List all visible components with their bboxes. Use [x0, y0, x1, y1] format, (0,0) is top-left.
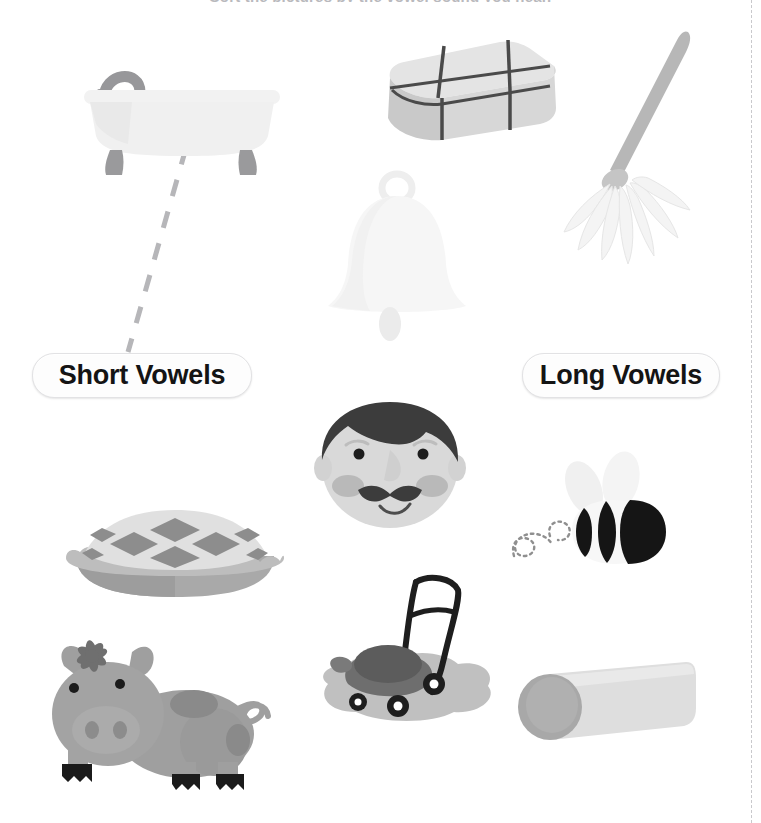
picture-pig[interactable]: [54, 622, 282, 794]
category-pill-short-vowels[interactable]: Short Vowels: [32, 353, 252, 398]
picture-lawn-mower[interactable]: [312, 572, 500, 730]
picture-log[interactable]: [500, 660, 696, 752]
picture-pie[interactable]: [62, 498, 288, 600]
gift-box-icon: [382, 32, 562, 147]
category-pill-long-vowels[interactable]: Long Vowels: [522, 353, 720, 398]
bathtub-icon: [82, 44, 282, 179]
picture-bell[interactable]: [322, 172, 472, 347]
picture-bathtub[interactable]: [82, 44, 282, 179]
log-icon: [500, 660, 696, 752]
pig-icon: [54, 622, 282, 794]
category-pill-short-vowels-label: Short Vowels: [59, 360, 226, 391]
cut-guide-line: [751, 0, 752, 823]
lawn-mower-icon: [312, 572, 500, 730]
man-face-icon: [314, 398, 466, 533]
picture-man-face[interactable]: [314, 398, 466, 533]
category-pill-long-vowels-label: Long Vowels: [540, 360, 702, 391]
picture-mop[interactable]: [560, 28, 720, 290]
worksheet-title-sliver: Sort the pictures by the vowel sound you…: [0, 0, 761, 2]
bell-icon: [322, 172, 472, 347]
mop-icon: [560, 28, 720, 290]
picture-gift-box[interactable]: [382, 32, 562, 147]
worksheet-page: Sort the pictures by the vowel sound you…: [0, 0, 761, 823]
picture-bee[interactable]: [506, 452, 676, 574]
pie-icon: [62, 498, 288, 600]
bee-icon: [506, 452, 676, 574]
